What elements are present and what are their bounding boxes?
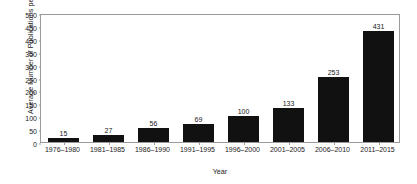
- x-axis-tick-mark: [379, 142, 380, 145]
- y-axis-tick-mark: [39, 92, 42, 93]
- bar-value-label: 56: [150, 120, 158, 127]
- bar: [183, 124, 214, 142]
- y-axis-tick-mark: [39, 144, 42, 145]
- bar-value-label: 253: [328, 69, 340, 76]
- y-axis-tick-mark: [39, 15, 42, 16]
- y-axis-tick-mark: [39, 105, 42, 106]
- x-axis-tick-label: 2001–2005: [270, 146, 305, 153]
- x-axis-tick-label: 1976–1980: [45, 146, 80, 153]
- y-axis-tick-mark: [39, 27, 42, 28]
- y-axis-tick-mark: [39, 53, 42, 54]
- bar-value-label: 133: [283, 100, 295, 107]
- x-axis-tick-mark: [199, 142, 200, 145]
- bar: [228, 116, 259, 142]
- x-axis-tick-label: 2011–2015: [360, 146, 395, 153]
- bar-value-label: 15: [60, 130, 68, 137]
- x-axis-tick-label: 1991–1995: [180, 146, 215, 153]
- plot-area: 0501001502002503003504004505001527566910…: [40, 14, 400, 143]
- bar: [273, 108, 304, 142]
- y-axis-tick-mark: [39, 118, 42, 119]
- bar-value-label: 431: [373, 23, 385, 30]
- bar-value-label: 27: [105, 127, 113, 134]
- x-axis-tick-mark: [334, 142, 335, 145]
- bar-value-label: 69: [195, 116, 203, 123]
- bar: [363, 31, 394, 142]
- y-axis-tick-mark: [39, 66, 42, 67]
- bar: [318, 77, 349, 142]
- x-axis-title: Year: [40, 167, 400, 176]
- publications-per-year-bar-chart: Average Number of Publications per Year …: [0, 0, 417, 184]
- x-axis-tick-mark: [154, 142, 155, 145]
- x-axis-tick-label: 1996–2000: [225, 146, 260, 153]
- x-axis-tick-label: 1986–1990: [135, 146, 170, 153]
- x-axis-tick-mark: [109, 142, 110, 145]
- bar: [138, 128, 169, 142]
- y-axis-tick-mark: [39, 79, 42, 80]
- bar-value-label: 100: [238, 108, 250, 115]
- x-axis-tick-label: 2006–2010: [315, 146, 350, 153]
- x-axis-tick-mark: [64, 142, 65, 145]
- x-axis-tick-mark: [289, 142, 290, 145]
- bar: [93, 135, 124, 142]
- x-axis-tick-label: 1981–1985: [90, 146, 125, 153]
- y-axis-tick-mark: [39, 40, 42, 41]
- y-axis-tick-mark: [39, 131, 42, 132]
- x-axis-tick-mark: [244, 142, 245, 145]
